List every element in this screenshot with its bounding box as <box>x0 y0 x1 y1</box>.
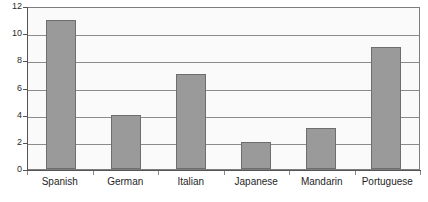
y-axis-tick-label: 0 <box>0 165 22 174</box>
x-axis-tick-mark <box>355 171 356 175</box>
y-axis-tick-mark <box>23 34 28 35</box>
x-axis-category-label: Italian <box>158 176 224 188</box>
y-axis-tick-label: 2 <box>0 138 22 147</box>
y-axis-tick-mark <box>23 7 28 8</box>
bar[interactable] <box>241 142 271 169</box>
plot-area <box>27 7 420 170</box>
x-axis-ticks <box>27 171 420 175</box>
x-axis-category-label: Japanese <box>224 176 290 188</box>
bar-slot <box>289 8 354 169</box>
y-axis-tick-label: 6 <box>0 84 22 93</box>
x-axis-tick-mark <box>158 171 159 175</box>
x-axis-tick-mark <box>420 171 421 175</box>
bar[interactable] <box>371 47 401 169</box>
bar-slot <box>93 8 158 169</box>
x-axis-tick-mark <box>93 171 94 175</box>
bars-layer <box>28 8 419 169</box>
bar-slot <box>158 8 223 169</box>
y-axis-tick-mark <box>23 61 28 62</box>
x-axis-tick-mark <box>27 171 28 175</box>
x-axis-category-label: Portuguese <box>355 176 421 188</box>
x-axis-tick-mark <box>224 171 225 175</box>
bar-chart: 121086420 SpanishGermanItalianJapaneseMa… <box>0 0 428 202</box>
y-axis-tick-label: 8 <box>0 56 22 65</box>
y-axis-tick-label: 12 <box>0 2 22 11</box>
x-axis-category-label: Spanish <box>27 176 93 188</box>
bar-slot <box>354 8 419 169</box>
y-axis-tick-label: 10 <box>0 29 22 38</box>
bar[interactable] <box>306 128 336 169</box>
y-axis-tick-label: 4 <box>0 111 22 120</box>
x-axis-category-label: Mandarin <box>289 176 355 188</box>
x-axis-labels: SpanishGermanItalianJapaneseMandarinPort… <box>27 176 420 188</box>
bar[interactable] <box>111 115 141 169</box>
y-axis-tick-mark <box>23 116 28 117</box>
bar-slot <box>224 8 289 169</box>
bar[interactable] <box>46 20 76 169</box>
y-axis-tick-mark <box>23 89 28 90</box>
x-axis-tick-mark <box>289 171 290 175</box>
bar-slot <box>28 8 93 169</box>
x-axis-category-label: German <box>93 176 159 188</box>
y-axis-tick-mark <box>23 143 28 144</box>
bar[interactable] <box>176 74 206 169</box>
